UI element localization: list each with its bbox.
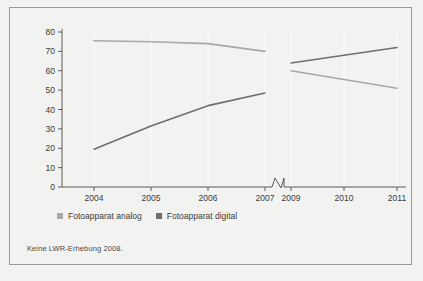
chart-footnote: Keine LWR-Erhebung 2008.	[27, 244, 123, 253]
legend-entry: Fotoapparat digital	[156, 212, 237, 221]
y-tick-label: 60	[46, 66, 56, 76]
series-line	[94, 41, 265, 52]
legend-entry: Fotoapparat analog	[57, 212, 142, 221]
y-tick-label: 40	[46, 105, 56, 115]
x-tick-label: 2007	[256, 193, 275, 203]
chart-legend: Fotoapparat analogFotoapparat digital	[57, 212, 237, 221]
y-axis-ticks: 01020304050607080	[46, 27, 62, 192]
y-tick-label: 20	[46, 143, 56, 153]
series-line	[94, 93, 265, 149]
y-tick-label: 80	[46, 27, 56, 37]
y-tick-label: 50	[46, 85, 56, 95]
y-tick-label: 10	[46, 163, 56, 173]
legend-label: Fotoapparat digital	[167, 212, 237, 221]
chart-figure: 01020304050607080 2004200520062007200920…	[0, 0, 423, 281]
y-tick-label: 30	[46, 124, 56, 134]
x-tick-label: 2005	[142, 193, 161, 203]
x-tick-label: 2006	[199, 193, 218, 203]
line-chart-plot: 01020304050607080 2004200520062007200920…	[0, 0, 423, 281]
square-marker	[57, 213, 63, 219]
x-axis-ticks: 2004200520062007200920102011	[85, 29, 407, 203]
square-marker	[156, 213, 162, 219]
x-tick-label: 2010	[335, 193, 354, 203]
x-axis-break-marker	[272, 178, 284, 188]
x-tick-label: 2004	[85, 193, 104, 203]
legend-label: Fotoapparat analog	[68, 212, 142, 221]
x-tick-label: 2011	[388, 193, 407, 203]
y-tick-label: 0	[50, 182, 55, 192]
x-axis-line	[62, 178, 406, 188]
data-series-group	[94, 41, 397, 150]
x-tick-label: 2009	[282, 193, 301, 203]
y-tick-label: 70	[46, 46, 56, 56]
